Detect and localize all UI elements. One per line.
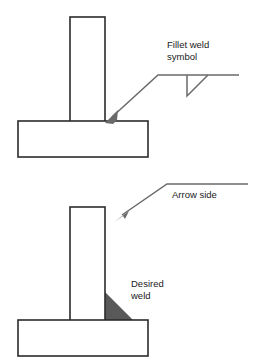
fillet-weld-label-line1: Fillet weld xyxy=(167,39,209,50)
welding-symbol-diagram: Fillet weld symbol Arrow side Desired we… xyxy=(0,0,255,363)
fillet-weld-symbol-triangle xyxy=(187,75,208,96)
lower-base-plate xyxy=(18,320,148,356)
upper-vertical-member xyxy=(70,17,105,122)
fillet-weld-label-line2: symbol xyxy=(167,51,197,62)
lower-arrowhead xyxy=(114,211,129,222)
lower-diagram-group: Arrow side Desired weld xyxy=(18,184,248,356)
diagram-canvas: Fillet weld symbol Arrow side Desired we… xyxy=(0,0,255,363)
desired-weld-fill xyxy=(105,292,133,320)
upper-diagram-group: Fillet weld symbol xyxy=(18,17,239,157)
lower-vertical-member xyxy=(70,207,105,321)
upper-leader-line xyxy=(112,75,239,117)
desired-weld-label-line1: Desired xyxy=(131,278,164,289)
desired-weld-label-line2: weld xyxy=(130,290,151,301)
arrow-side-label: Arrow side xyxy=(172,189,217,200)
upper-base-plate xyxy=(18,121,148,157)
